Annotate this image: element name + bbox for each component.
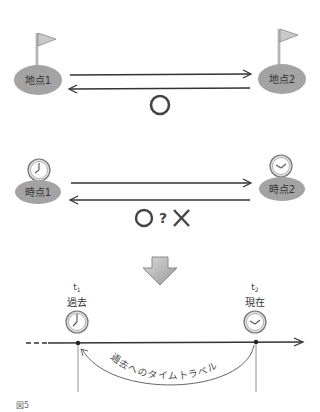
time2-label: 時点2	[269, 184, 295, 195]
backward-arrow	[70, 196, 250, 204]
forward-arrow	[70, 70, 251, 78]
clock-icon	[244, 311, 266, 333]
point2-label: 地点2	[269, 73, 295, 85]
impossible-cross-icon	[174, 210, 189, 226]
time-axis	[26, 338, 303, 346]
backward-arrow	[69, 85, 250, 93]
t2-symbol: t2	[251, 282, 259, 293]
flag-icon	[279, 29, 298, 66]
point1-label: 地点1	[25, 74, 51, 86]
clock-icon	[66, 311, 88, 333]
section-places: 地点1 地点2	[14, 29, 306, 114]
figure-caption: 図5	[16, 401, 29, 410]
time-travel-diagram: 地点1 地点2 時点1	[0, 0, 320, 412]
arc-label: 過去へのタイムトラベル	[109, 351, 220, 381]
t1-point	[76, 341, 80, 345]
possible-circle-icon	[151, 96, 169, 114]
forward-arrow	[71, 179, 251, 187]
question-mark: ?	[159, 210, 167, 226]
down-arrow-icon	[143, 257, 177, 285]
past-label: 過去	[67, 297, 87, 308]
t2-point	[254, 340, 258, 344]
section-timeline: t1 過去 t2 現在	[26, 282, 303, 392]
clock-icon	[28, 159, 50, 181]
possible-circle-icon	[136, 210, 152, 226]
present-label: 現在	[245, 297, 265, 308]
section-times: 時点1 時点2 ?	[15, 155, 305, 226]
time1-label: 時点1	[25, 187, 51, 198]
t1-symbol: t1	[73, 282, 81, 293]
clock-icon	[270, 155, 292, 177]
